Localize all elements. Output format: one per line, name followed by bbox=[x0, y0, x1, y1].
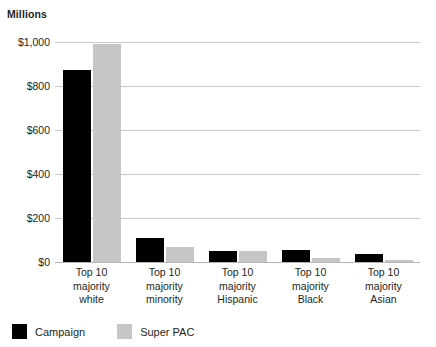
y-axis-tick-label: $600 bbox=[2, 124, 50, 136]
x-axis: Top 10majoritywhiteTop 10majorityminorit… bbox=[55, 266, 420, 312]
x-axis-category-label: Top 10majoritywhite bbox=[55, 266, 128, 307]
bar-group bbox=[347, 42, 420, 262]
bars-layer bbox=[55, 42, 420, 262]
bar-campaign bbox=[136, 238, 164, 262]
bar-super-pac bbox=[312, 258, 340, 262]
x-axis-label-line: white bbox=[55, 293, 128, 307]
bar-super-pac bbox=[166, 247, 194, 262]
x-axis-category-label: Top 10majorityAsian bbox=[347, 266, 420, 307]
x-axis-category-label: Top 10majorityHispanic bbox=[201, 266, 274, 307]
legend-item[interactable]: Campaign bbox=[12, 324, 85, 339]
bar-group bbox=[274, 42, 347, 262]
x-axis-label-line: Top 10 bbox=[274, 266, 347, 280]
bar-group bbox=[55, 42, 128, 262]
legend-swatch-super-pac bbox=[117, 324, 132, 339]
x-axis-label-line: Top 10 bbox=[201, 266, 274, 280]
x-axis-category-label: Top 10majorityBlack bbox=[274, 266, 347, 307]
bar-group bbox=[128, 42, 201, 262]
bar-super-pac bbox=[93, 44, 121, 262]
x-axis-label-line: majority bbox=[274, 280, 347, 294]
x-axis-category-label: Top 10majorityminority bbox=[128, 266, 201, 307]
x-axis-label-line: Hispanic bbox=[201, 293, 274, 307]
x-axis-label-line: Top 10 bbox=[55, 266, 128, 280]
chart-legend: CampaignSuper PAC bbox=[12, 324, 194, 339]
y-axis-tick-label: $800 bbox=[2, 80, 50, 92]
x-axis-label-line: majority bbox=[347, 280, 420, 294]
x-axis-label-line: Top 10 bbox=[128, 266, 201, 280]
bar-campaign bbox=[209, 251, 237, 262]
legend-label: Super PAC bbox=[140, 326, 194, 338]
y-axis-tick-label: $0 bbox=[2, 256, 50, 268]
bar-chart: Millions $0$200$400$600$800$1,000 Top 10… bbox=[0, 0, 436, 347]
bar-campaign bbox=[63, 70, 91, 262]
x-axis-label-line: majority bbox=[128, 280, 201, 294]
bar-campaign bbox=[355, 254, 383, 262]
x-axis-label-line: Black bbox=[274, 293, 347, 307]
gridline bbox=[55, 262, 420, 263]
bar-campaign bbox=[282, 250, 310, 262]
x-axis-label-line: majority bbox=[55, 280, 128, 294]
x-axis-label-line: minority bbox=[128, 293, 201, 307]
x-axis-label-line: majority bbox=[201, 280, 274, 294]
legend-item[interactable]: Super PAC bbox=[117, 324, 194, 339]
x-axis-label-line: Top 10 bbox=[347, 266, 420, 280]
y-axis-tick-label: $400 bbox=[2, 168, 50, 180]
bar-super-pac bbox=[385, 260, 413, 262]
y-axis-tick-label: $200 bbox=[2, 212, 50, 224]
legend-swatch-campaign bbox=[12, 324, 27, 339]
units-label: Millions bbox=[7, 8, 47, 20]
bar-group bbox=[201, 42, 274, 262]
x-axis-label-line: Asian bbox=[347, 293, 420, 307]
y-axis: $0$200$400$600$800$1,000 bbox=[0, 42, 50, 262]
bar-super-pac bbox=[239, 251, 267, 262]
y-axis-tick-label: $1,000 bbox=[2, 36, 50, 48]
legend-label: Campaign bbox=[35, 326, 85, 338]
